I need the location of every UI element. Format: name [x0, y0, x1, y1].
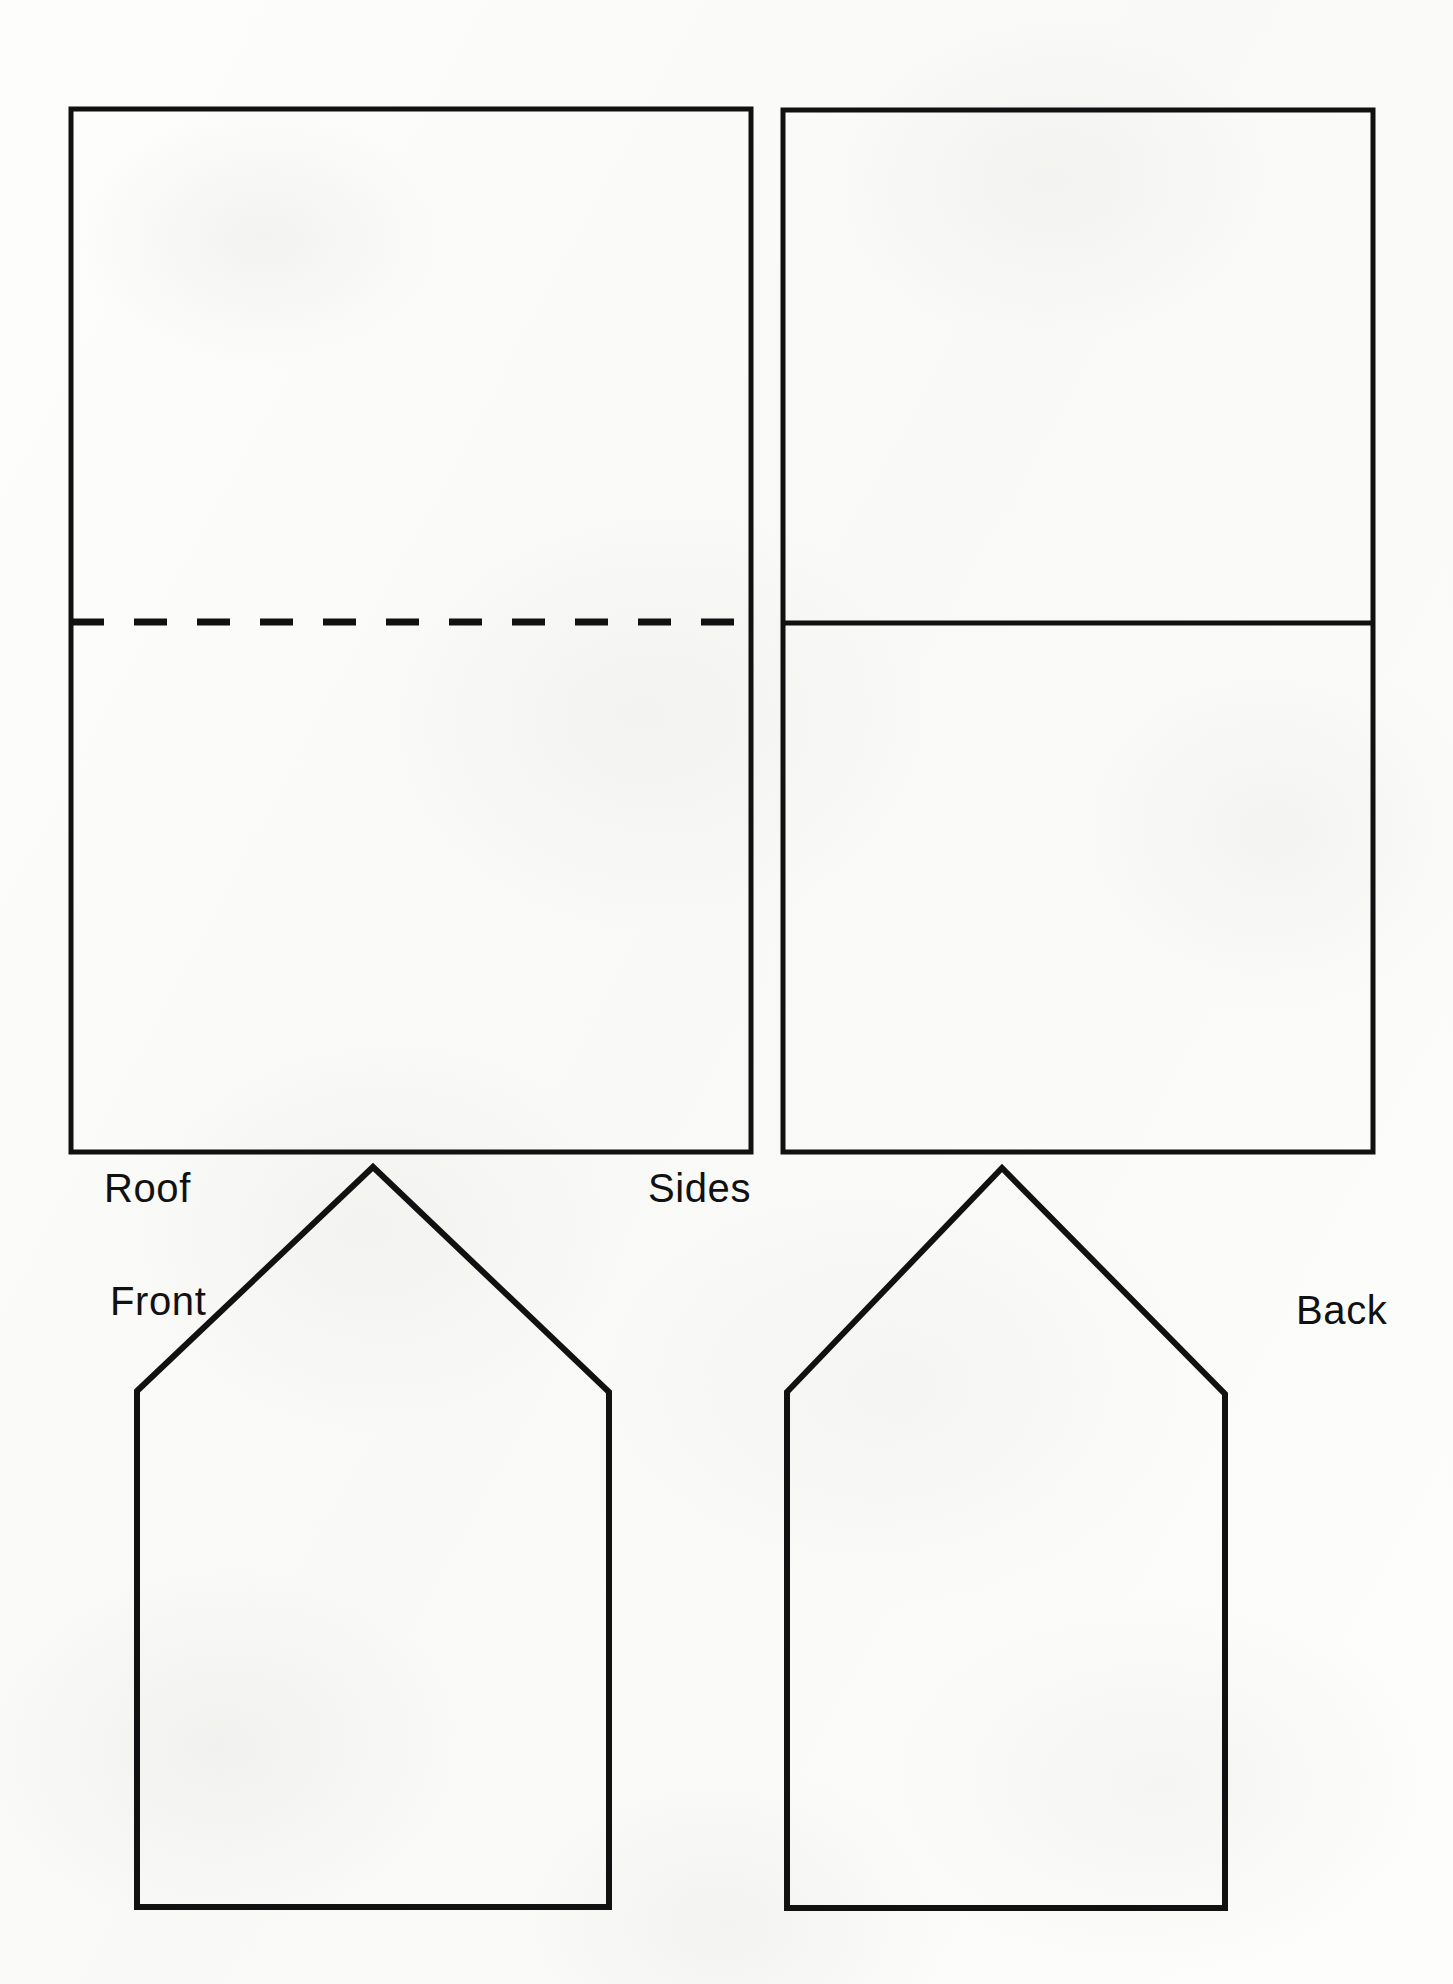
- shape-label-sides: Sides: [648, 1168, 751, 1208]
- shape-sides[interactable]: [783, 110, 1373, 1152]
- front-outline[interactable]: [137, 1167, 609, 1907]
- roof-outline[interactable]: [71, 109, 751, 1152]
- shape-front[interactable]: [137, 1167, 609, 1907]
- back-outline[interactable]: [787, 1168, 1225, 1908]
- shape-label-roof: Roof: [104, 1168, 191, 1208]
- shape-back[interactable]: [787, 1168, 1225, 1908]
- sides-outline[interactable]: [783, 110, 1373, 1152]
- shape-label-front: Front: [110, 1281, 206, 1321]
- template-artboard: [0, 0, 1453, 1984]
- template-page: Roof Sides Front Back: [0, 0, 1453, 1984]
- shape-roof[interactable]: [71, 109, 751, 1152]
- shape-label-back: Back: [1296, 1290, 1387, 1330]
